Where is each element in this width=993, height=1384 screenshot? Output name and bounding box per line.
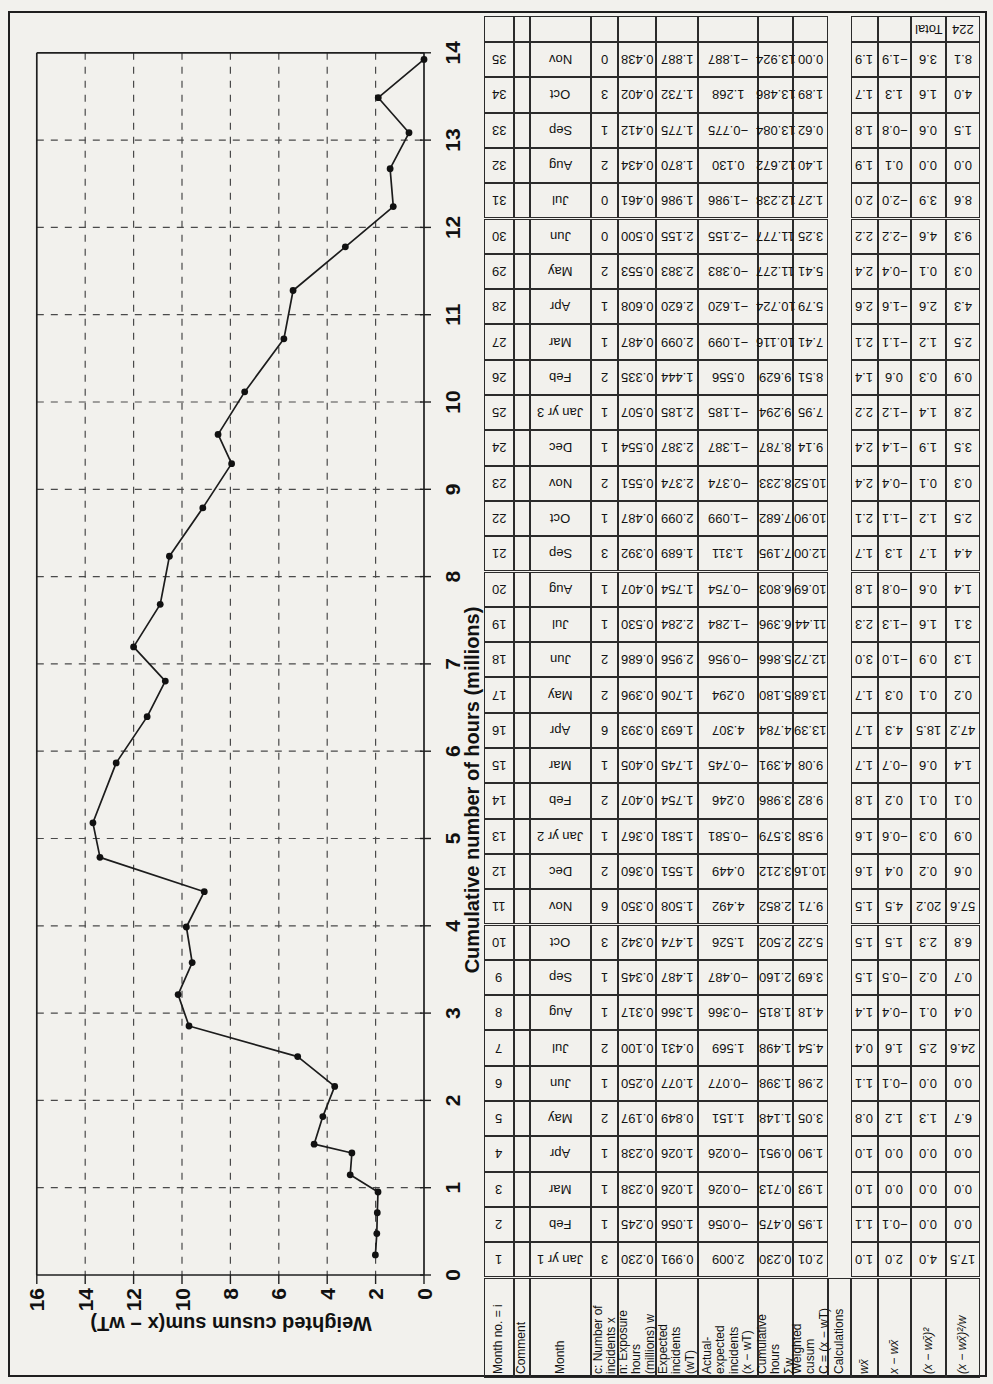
cell-value: 1.151 [712, 1111, 745, 1126]
table-cell: 2.4 [851, 254, 878, 289]
table-cell: 2.98 [793, 1066, 828, 1101]
table-cell: 57.6 [946, 889, 980, 924]
cell-value: 1.7 [855, 546, 873, 561]
table-cell: −1.099 [698, 324, 758, 359]
cell-value: 9.82 [798, 793, 823, 808]
cell-value: 2 [601, 1041, 608, 1056]
cell-value: 5.180 [759, 688, 792, 703]
cell-value: −0.775 [708, 123, 748, 138]
table-cell: 1 [591, 960, 618, 995]
cell-value: 0 [601, 193, 608, 208]
cell-value: 2.5 [954, 335, 972, 350]
cell-value: 29 [492, 264, 506, 279]
cell-value: 1.508 [661, 899, 694, 914]
table-cell: 12.72 [793, 642, 828, 677]
table-cell: 1.706 [656, 677, 698, 712]
cell-value: −1.887 [708, 52, 748, 67]
table-cell: 6 [591, 889, 618, 924]
cell-value: 8 [495, 1005, 502, 1020]
table-cell [514, 748, 530, 783]
cell-value: −1.4 [882, 440, 908, 455]
cell-value: Jul [552, 193, 569, 208]
table-cell [514, 642, 530, 677]
header-label: n: Exposure hours (millions) w [617, 1282, 657, 1374]
table-cell [514, 77, 530, 112]
cell-value: 0.0 [919, 158, 937, 173]
table-cell: 1.689 [656, 536, 698, 571]
cell-value: 4.391 [759, 758, 792, 773]
cell-value: 1 [601, 405, 608, 420]
header-cell: Comment [514, 1278, 530, 1378]
cell-value: 2.387 [661, 440, 694, 455]
cell-value: 1.40 [798, 158, 823, 173]
table-cell: 1.6 [911, 607, 946, 642]
cell-value: 1.3 [885, 546, 903, 561]
table-cell: Sep [530, 536, 591, 571]
cell-value: 1.2 [919, 511, 937, 526]
cell-value: 1.4 [919, 405, 937, 420]
cell-value: 0.0 [954, 1146, 972, 1161]
table-cell: Nov [530, 42, 591, 77]
total-label-cell: Total [911, 16, 946, 42]
table-cell: 9.629 [758, 360, 793, 395]
table-cell: 0.345 [618, 960, 656, 995]
cell-value: 0.4 [855, 1041, 873, 1056]
cell-value: 2 [495, 1217, 502, 1232]
cell-value: 13.924 [756, 52, 796, 67]
cell-value: −1.620 [708, 299, 748, 314]
cell-value: 10.724 [756, 299, 796, 314]
cell-value: 3.25 [798, 229, 823, 244]
table-cell: 31 [484, 183, 514, 218]
cell-value: 1.6 [855, 829, 873, 844]
cell-value: 0.2 [919, 864, 937, 879]
table-cell: −0.1 [878, 1066, 911, 1101]
cell-value: May [548, 264, 573, 279]
cell-value: 6.8 [954, 935, 972, 950]
table-cell: Feb [530, 1207, 591, 1242]
table-cell: 0.556 [698, 360, 758, 395]
cell-value: −0.8 [882, 582, 908, 597]
table-cell: 2 [591, 254, 618, 289]
table-cell: 5.41 [793, 254, 828, 289]
table-cell: 0.553 [618, 254, 656, 289]
table-cell [514, 1066, 530, 1101]
cusum-tick-label: 14 [74, 1288, 97, 1312]
cell-value: 2 [601, 264, 608, 279]
cell-value: −1.2 [882, 405, 908, 420]
cell-value: 5.866 [759, 652, 792, 667]
cusum-tick-label: 16 [25, 1288, 48, 1311]
hours-tick-label: 6 [441, 745, 464, 757]
data-point [387, 165, 394, 172]
cell-value: −0.745 [708, 758, 748, 773]
cell-value: 10.90 [794, 511, 827, 526]
table-cell: 2.099 [656, 501, 698, 536]
cell-value: −1.099 [708, 511, 748, 526]
table-cell: 1.3 [911, 1101, 946, 1136]
table-cell: 1.7 [851, 748, 878, 783]
cell-value: Total [915, 22, 942, 37]
table-cell [514, 819, 530, 854]
table-cell: 0.0 [946, 1066, 980, 1101]
table-cell: 12 [484, 854, 514, 889]
cell-value: 1.487 [661, 970, 694, 985]
table-cell: 0.62 [793, 113, 828, 148]
table-cell: 1 [591, 995, 618, 1030]
cell-value: 1.5 [855, 970, 873, 985]
cell-value: 0.8 [855, 1111, 873, 1126]
table-cell: −1.986 [698, 183, 758, 218]
cell-value: 4 [495, 1146, 502, 1161]
table-cell: 0.3 [946, 466, 980, 501]
cell-value: 9.58 [798, 829, 823, 844]
table-cell: 1.0 [851, 1136, 878, 1171]
table-cell: 29 [484, 254, 514, 289]
table-cell: 0.230 [618, 1242, 656, 1277]
table-cell: 3 [591, 1242, 618, 1277]
cell-value: 0.713 [759, 1182, 792, 1197]
data-point [144, 713, 151, 720]
cell-value: 0.1 [919, 476, 937, 491]
table-cell: Aug [530, 572, 591, 607]
table-cell: 6 [591, 713, 618, 748]
cell-value: 3.9 [919, 193, 937, 208]
table-cell: 3 [591, 77, 618, 112]
cell-value: 7 [495, 1041, 502, 1056]
